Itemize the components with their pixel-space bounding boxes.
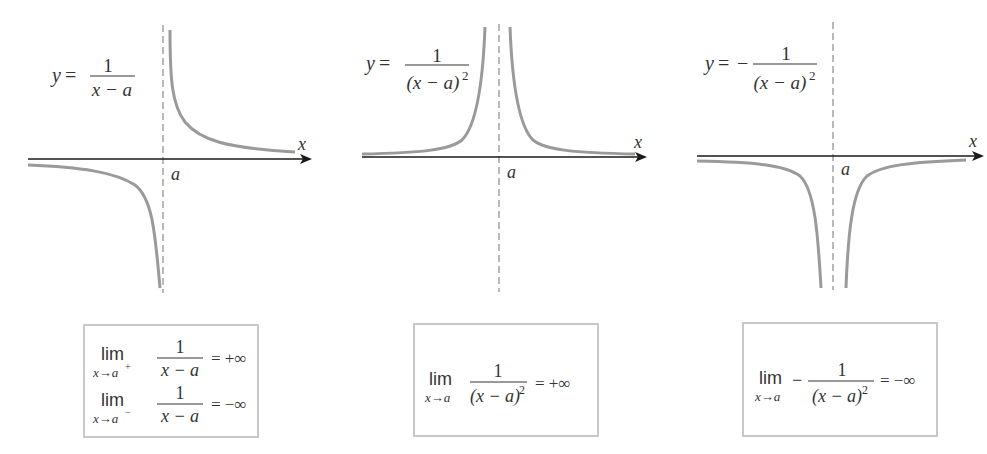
svg-text:= −∞: = −∞: [211, 395, 247, 414]
svg-text:1: 1: [176, 337, 185, 357]
svg-text:= +∞: = +∞: [535, 374, 571, 393]
curve-right-branch: [170, 30, 295, 152]
svg-text:=: =: [379, 52, 390, 74]
asymptote-label: a: [171, 164, 180, 184]
graph-negative-inverse-square: x a y = − 1 (x − a) 2: [697, 22, 982, 290]
limit-row-left: lim x→a − 1 x − a = −∞: [92, 383, 247, 426]
svg-text:x→a: x→a: [424, 390, 451, 405]
limit-row: lim x→a − 1 (x − a) 2 = −∞: [754, 360, 916, 407]
curve-left-branch: [697, 161, 821, 288]
asymptote-label: a: [507, 162, 516, 182]
svg-text:1: 1: [494, 361, 503, 381]
svg-text:2: 2: [519, 383, 525, 397]
x-axis-label: x: [633, 132, 642, 152]
svg-text:(x − a): (x − a): [407, 72, 460, 94]
svg-text:x→a: x→a: [92, 411, 119, 426]
svg-text:x − a: x − a: [91, 79, 132, 100]
svg-text:(x − a): (x − a): [812, 386, 862, 407]
svg-text:lim: lim: [101, 390, 124, 410]
svg-text:−: −: [125, 407, 131, 418]
svg-text:=: =: [65, 64, 76, 86]
svg-text:y: y: [703, 52, 714, 75]
graph-inverse-square: x a y = 1 (x − a) 2: [362, 24, 645, 292]
svg-text:1: 1: [838, 360, 847, 380]
limit-box-content: lim x→a 1 (x − a) 2 = +∞: [415, 325, 597, 435]
svg-text:(x − a): (x − a): [754, 72, 807, 94]
svg-text:1: 1: [781, 43, 791, 64]
svg-text:x→a: x→a: [92, 365, 119, 380]
svg-text:y: y: [364, 52, 375, 75]
limit-box-content: lim x→a − 1 (x − a) 2 = −∞: [744, 324, 936, 435]
svg-text:x − a: x − a: [160, 360, 199, 380]
svg-text:lim: lim: [759, 368, 782, 388]
limit-row-right: lim x→a + 1 x − a = +∞: [92, 337, 247, 380]
svg-text:1: 1: [432, 45, 442, 66]
limit-box-content: lim x→a + 1 x − a = +∞ lim x→a − 1 x − a…: [85, 326, 257, 436]
curve-right-branch: [846, 160, 966, 288]
graph-reciprocal: x a y = 1 x − a: [28, 25, 310, 293]
svg-text:=: =: [718, 52, 729, 74]
x-axis-label: x: [297, 134, 306, 154]
equation-label: y = 1 x − a: [50, 55, 135, 100]
curve-left-branch: [28, 165, 160, 288]
svg-text:= +∞: = +∞: [211, 349, 247, 368]
svg-text:(x − a): (x − a): [470, 386, 520, 407]
svg-text:+: +: [125, 361, 131, 372]
svg-text:x→a: x→a: [754, 389, 781, 404]
svg-text:−: −: [792, 370, 802, 390]
svg-text:−: −: [737, 52, 748, 74]
svg-text:lim: lim: [101, 344, 124, 364]
equation-label: y = − 1 (x − a) 2: [703, 43, 817, 94]
svg-text:y: y: [50, 64, 61, 87]
svg-text:2: 2: [809, 68, 816, 83]
limit-box-inverse-square: lim x→a 1 (x − a) 2 = +∞: [413, 323, 599, 437]
svg-text:1: 1: [103, 55, 113, 76]
limit-box-reciprocal: lim x→a + 1 x − a = +∞ lim x→a − 1 x − a…: [83, 324, 259, 438]
svg-text:= −∞: = −∞: [880, 371, 916, 390]
limit-row: lim x→a 1 (x − a) 2 = +∞: [424, 361, 571, 407]
curve-right-branch: [510, 27, 635, 154]
equation-label: y = 1 (x − a) 2: [364, 45, 469, 94]
svg-text:lim: lim: [429, 369, 452, 389]
asymptote-label: a: [841, 159, 850, 179]
svg-text:2: 2: [462, 68, 469, 83]
svg-text:x − a: x − a: [160, 406, 199, 426]
svg-text:2: 2: [862, 383, 868, 397]
limit-box-negative-inverse-square: lim x→a − 1 (x − a) 2 = −∞: [742, 322, 938, 437]
svg-text:1: 1: [176, 383, 185, 403]
x-axis-label: x: [968, 131, 977, 151]
